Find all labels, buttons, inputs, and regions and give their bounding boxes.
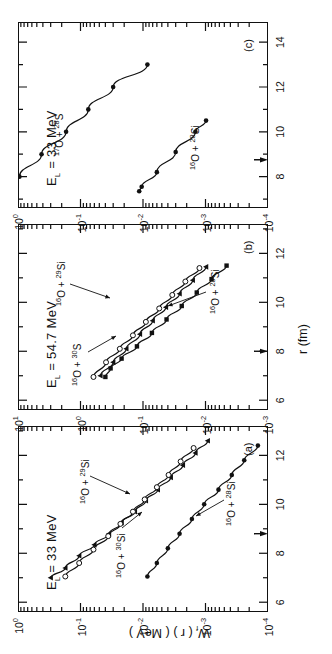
curve-label: 16O + 28Si [208, 269, 221, 314]
x-axis-title: r (fm) [296, 324, 310, 354]
curve-label: 17O + 28S [52, 114, 65, 156]
x-tick-label: 12 [275, 81, 286, 93]
y-tick-label: 101 [12, 416, 24, 432]
panel-tag: (a) [242, 443, 254, 456]
panel-b: 68101210110010-110-210-3(b)EL = 54.7 MeV… [18, 224, 268, 410]
y-tick-label: 100 [75, 416, 87, 432]
y-tick-label: 100 [12, 618, 24, 634]
x-tick-label: 14 [275, 36, 286, 48]
energy-annotation: EL = 54.7 MeV [44, 301, 62, 388]
x-tick-label: 12 [275, 450, 286, 462]
curve-label: 16O + 30Si [114, 533, 127, 578]
panel-c: 810121410010-110-210-310-4(c)EL = 33 MeV… [18, 22, 268, 208]
y-tick-label: 10-3 [262, 416, 274, 434]
y-tick-label: 10-4 [262, 214, 274, 232]
y-tick-label: 10-2 [137, 214, 149, 232]
curve-label: 16O + 29Si [78, 459, 91, 504]
panel-tag: (b) [242, 241, 254, 254]
figure-stage: 68101210010-110-210-310-4(a)EL = 33 MeV1… [0, 0, 332, 654]
panel-a: 68101210010-110-210-310-4(a)EL = 33 MeV1… [18, 426, 268, 612]
x-tick-label: 8 [275, 174, 286, 180]
curve-label: 16O + 28Si [188, 125, 201, 170]
curve-label: 16O + 30S [70, 344, 83, 386]
y-axis-title: Wf ( r ) ( MeV ) [129, 624, 210, 641]
y-tick-label: 100 [12, 214, 24, 230]
x-tick-label: 10 [275, 296, 286, 308]
energy-annotation: EL = 33 MeV [44, 514, 62, 590]
x-tick-label: 10 [275, 498, 286, 510]
x-tick-label: 6 [275, 599, 286, 605]
x-tick-label: 12 [275, 248, 286, 260]
x-tick-label: 6 [275, 397, 286, 403]
x-tick-label: 8 [275, 348, 286, 354]
y-tick-label: 10-2 [200, 416, 212, 434]
curve-label: 16O + 29Si [54, 261, 67, 306]
panel-tag: (c) [242, 39, 254, 52]
y-tick-label: 10-3 [200, 214, 212, 232]
x-tick-label: 10 [275, 126, 286, 138]
multi-panel-figure: 68101210010-110-210-310-4(a)EL = 33 MeV1… [0, 0, 332, 654]
y-tick-label: 10-4 [262, 618, 274, 636]
y-tick-label: 10-1 [75, 618, 87, 636]
y-tick-label: 10-1 [75, 214, 87, 232]
y-tick-label: 10-1 [137, 416, 149, 434]
curve-label: 16O + 28Si [224, 481, 237, 526]
x-tick-label: 8 [275, 550, 286, 556]
